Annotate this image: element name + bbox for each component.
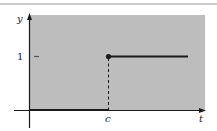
- y-axis-label: y: [16, 13, 23, 24]
- step-function-figure: y 1 c t: [0, 0, 217, 131]
- shaded-region: [30, 15, 205, 110]
- x-axis-label: t: [199, 113, 204, 124]
- x-tick-label: c: [105, 113, 111, 124]
- y-tick-label: 1: [17, 51, 23, 62]
- filled-point-icon: [106, 54, 111, 59]
